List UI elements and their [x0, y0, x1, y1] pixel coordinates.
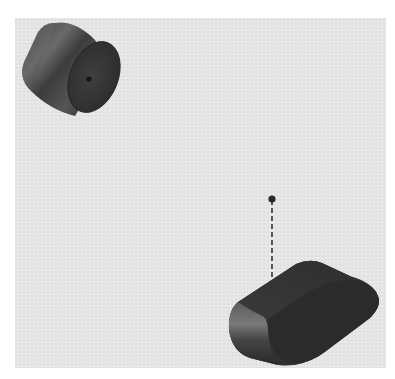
rounded-block[interactable] — [229, 261, 379, 366]
cylinder[interactable] — [22, 23, 130, 121]
cylinder-center-hole-icon — [86, 76, 91, 81]
scene-canvas[interactable] — [0, 0, 395, 379]
point-projection[interactable] — [268, 195, 275, 280]
point-marker-icon[interactable] — [268, 195, 275, 202]
